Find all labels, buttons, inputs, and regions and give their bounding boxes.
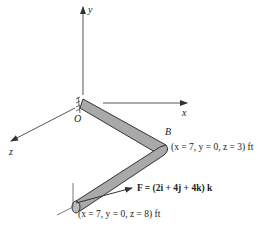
bar-segment-ob [80,99,166,155]
x-axis-label: x [181,107,187,118]
point-b-coords: (x = 7, y = 0, z = 3) ft [171,142,254,153]
z-axis-label: z [8,146,13,157]
tip-z-line [57,207,73,215]
y-axis-label: y [87,4,93,15]
force-label: F = (2i + 4j + 4k) k [137,183,213,194]
bent-bar-diagram: y x z O F = (2i + 4j + 4k) k B (x = 7, y… [0,0,265,226]
z-axis [11,108,75,141]
bar-segment-b-tip [73,145,168,211]
point-b-label: B [165,126,171,137]
origin-label: O [74,113,81,124]
tip-coords: (x = 7, y = 0, z = 8) ft [78,209,161,220]
wall-support-icon [76,97,80,113]
